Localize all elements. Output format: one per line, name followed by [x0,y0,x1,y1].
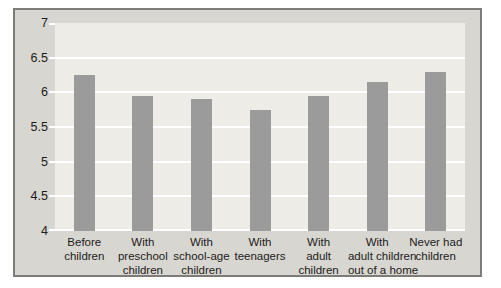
x-axis-label-line: With [231,235,290,249]
x-axis-label-line: Never had [406,235,465,249]
y-axis-label: 4 [15,224,48,238]
x-axis-label: Withteenagers [231,235,290,277]
x-axis-label-line: children [55,249,114,263]
bar [74,75,95,231]
x-axis-label-line: children [289,263,348,277]
bar [191,99,212,231]
bar-slot [231,23,290,231]
bar-slot [172,23,231,231]
y-axis-label: 6 [15,85,48,99]
y-axis-labels: 76.565.554.54 [15,23,48,231]
bar [132,96,153,231]
x-axis-label-line: With [289,235,348,249]
x-axis-label-line: teenagers [231,249,290,263]
y-axis-label: 4.5 [15,189,48,203]
x-axis-label: Withschool-agechildren [172,235,231,277]
x-axis-label: Never hadchildren [406,235,465,277]
bar-chart: 76.565.554.54 BeforechildrenWithpreschoo… [13,8,482,277]
bar-slot [114,23,173,231]
bar-slot [348,23,407,231]
x-axis-label-line: With [172,235,231,249]
x-axis-label-line: out of a home [348,263,407,277]
bars-container [55,23,465,231]
bar [308,96,329,231]
x-axis-label-line: school-age [172,249,231,263]
x-axis-label: Beforechildren [55,235,114,277]
x-axis-label-line: adult children [348,249,407,263]
x-axis-labels: BeforechildrenWithpreschoolchildrenWiths… [55,235,465,277]
y-axis-label: 7 [15,16,48,30]
bar [425,72,446,231]
x-axis-label-line: Before [55,235,114,249]
x-axis-label-line: adult [289,249,348,263]
x-axis-label-line: preschool [114,249,173,263]
y-axis-label: 6.5 [15,51,48,65]
x-axis-label-line: With [114,235,173,249]
x-axis-label-line: children [172,263,231,277]
bar [367,82,388,231]
x-axis-label: Withadultchildren [289,235,348,277]
x-axis-label-line: With [348,235,407,249]
page: 76.565.554.54 BeforechildrenWithpreschoo… [0,0,501,288]
bar-slot [55,23,114,231]
bar-slot [406,23,465,231]
x-axis-label-line: children [114,263,173,277]
x-axis-label-line: children [406,249,465,263]
bar [250,110,271,231]
y-axis-label: 5 [15,155,48,169]
plot-area [55,23,465,231]
x-axis-label: Withpreschoolchildren [114,235,173,277]
y-axis-label: 5.5 [15,120,48,134]
x-axis-label: Withadult childrenout of a home [348,235,407,277]
bar-slot [289,23,348,231]
